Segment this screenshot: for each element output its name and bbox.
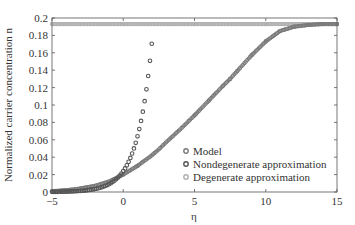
data-point — [129, 156, 133, 160]
legend: Model Nondegenerate approximation Degene… — [184, 145, 327, 183]
series-nondegenerate — [50, 42, 153, 194]
y-tick-label: 0.12 — [29, 82, 48, 94]
y-tick-label: 0.16 — [29, 47, 49, 59]
x-axis-label: η — [191, 210, 197, 222]
x-tick-label: 10 — [260, 195, 272, 207]
legend-marker-model — [184, 149, 188, 153]
data-point — [132, 147, 136, 151]
data-point — [139, 119, 143, 123]
y-tick-label: 0 — [43, 186, 49, 198]
x-tick-label: 0 — [121, 195, 127, 207]
data-point — [137, 127, 141, 131]
legend-item-nondegenerate: Nondegenerate approximation — [184, 158, 327, 170]
y-tick-label: 0.02 — [29, 169, 48, 181]
data-point — [143, 99, 147, 103]
legend-marker-nondegenerate — [184, 162, 188, 166]
legend-label-degenerate: Degenerate approximation — [193, 171, 310, 183]
data-point — [141, 110, 145, 114]
data-point — [146, 74, 150, 78]
data-point — [150, 42, 154, 46]
data-point — [148, 59, 152, 63]
legend-label-model: Model — [193, 145, 222, 157]
y-tick-label: 0.04 — [29, 151, 49, 163]
data-point — [145, 88, 149, 92]
data-point — [136, 135, 140, 139]
chart: −505101500.020.040.060.080.10.120.140.16… — [0, 0, 355, 225]
data-point — [127, 160, 131, 164]
data-point — [130, 152, 134, 156]
y-tick-label: 0.18 — [29, 29, 49, 41]
y-tick-label: 0.06 — [29, 134, 49, 146]
y-tick-label: 0.08 — [29, 116, 49, 128]
legend-marker-degenerate — [184, 175, 188, 179]
legend-label-nondegenerate: Nondegenerate approximation — [193, 158, 327, 170]
x-tick-label: 5 — [192, 195, 198, 207]
x-tick-label: 15 — [332, 195, 344, 207]
y-tick-label: 0.2 — [34, 12, 48, 24]
data-point — [134, 141, 138, 145]
y-tick-label: 0.14 — [29, 64, 49, 76]
y-axis-label: Normalized carrier concentration n — [2, 27, 14, 182]
legend-item-model: Model — [184, 145, 222, 157]
y-tick-label: 0.1 — [34, 99, 48, 111]
legend-item-degenerate: Degenerate approximation — [184, 171, 311, 183]
